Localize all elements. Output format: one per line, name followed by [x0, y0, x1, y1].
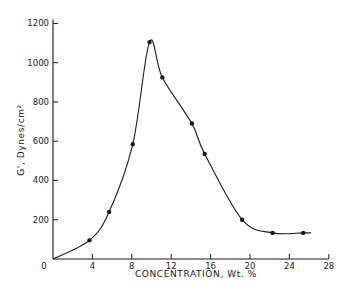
plot-area [53, 40, 311, 259]
data-point [147, 40, 151, 44]
data-point [202, 152, 206, 156]
y-tick-label: 1000 [27, 58, 49, 68]
data-point [87, 238, 91, 242]
data-point [107, 210, 111, 214]
chart: 20040060080010001200 G', Dynes/cm² 48121… [0, 0, 345, 291]
data-point [190, 121, 194, 125]
origin-label: 0 [41, 261, 46, 271]
data-point [301, 231, 305, 235]
x-tick-label: 28 [323, 261, 334, 271]
y-tick-label: 1200 [27, 18, 49, 28]
data-point [160, 75, 164, 79]
y-tick-label: 200 [33, 215, 49, 225]
data-curve [53, 40, 311, 259]
x-axis-label: CONCENTRATION, Wt. % [135, 269, 257, 279]
y-axis: 20040060080010001200 G', Dynes/cm² [16, 18, 58, 259]
x-tick-label: 4 [90, 261, 95, 271]
y-tick-label: 400 [33, 175, 49, 185]
y-axis-label: G', Dynes/cm² [16, 104, 26, 176]
data-point [131, 142, 135, 146]
x-tick-label: 24 [284, 261, 295, 271]
y-tick-label: 600 [33, 136, 49, 146]
data-markers [87, 40, 305, 243]
y-tick-label: 800 [33, 97, 49, 107]
data-point [240, 218, 244, 222]
x-axis: 481216202428 CONCENTRATION, Wt. % [53, 254, 334, 279]
x-tick-label: 8 [129, 261, 134, 271]
data-point [270, 231, 274, 235]
